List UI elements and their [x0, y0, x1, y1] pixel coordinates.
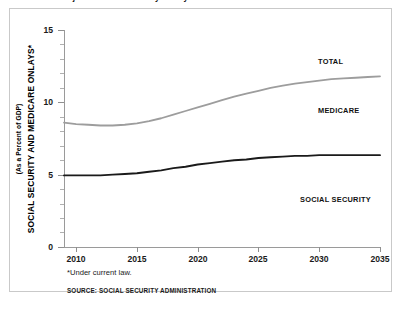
- x-tick-mark-2025: [258, 247, 259, 252]
- y-tick-minor-9: [60, 117, 64, 118]
- y-tick-minor-8: [60, 131, 64, 132]
- y-axis-title-block: SOCIAL SECURITY AND MEDICARE ONLAYS* (As…: [14, 30, 32, 248]
- y-tick-label-5: 5: [23, 170, 53, 180]
- y-tick-mark-15: [58, 30, 64, 31]
- y-tick-minor-1: [60, 232, 64, 233]
- chart-plot-area: SOCIAL SECURITY AND MEDICARE ONLAYS* (As…: [0, 0, 402, 316]
- x-tick-mark-2035: [380, 247, 381, 252]
- x-tick-label-2015: 2015: [117, 254, 157, 264]
- y-tick-minor-11: [60, 88, 64, 89]
- x-tick-mark-2030: [319, 247, 320, 252]
- y-tick-mark-0: [58, 247, 64, 248]
- y-tick-mark-10: [58, 102, 64, 103]
- source-note: SOURCE: SOCIAL SECURITY ADMINISTRATION: [67, 287, 216, 294]
- y-axis-subtitle: (As a Percent of GDP): [15, 30, 22, 248]
- y-tick-minor-12: [60, 73, 64, 74]
- line-social-security: [64, 155, 380, 175]
- x-tick-label-2030: 2030: [299, 254, 339, 264]
- x-tick-label-2035: 2035: [360, 254, 400, 264]
- x-tick-mark-2020: [198, 247, 199, 252]
- y-tick-minor-2: [60, 218, 64, 219]
- y-tick-minor-14: [60, 44, 64, 45]
- series-label-social-security: SOCIAL SECURITY: [300, 195, 371, 204]
- y-tick-label-0: 0: [23, 242, 53, 252]
- x-tick-mark-2015: [137, 247, 138, 252]
- y-tick-minor-7: [60, 146, 64, 147]
- y-axis-title: SOCIAL SECURITY AND MEDICARE ONLAYS*: [26, 30, 36, 248]
- series-label-medicare: MEDICARE: [318, 106, 359, 115]
- y-tick-minor-3: [60, 204, 64, 205]
- footnote: *Under current law.: [67, 268, 132, 277]
- series-lines: [0, 0, 402, 316]
- x-tick-label-2010: 2010: [56, 254, 96, 264]
- line-total: [64, 76, 380, 125]
- y-axis-line: [64, 30, 65, 248]
- x-tick-label-2020: 2020: [178, 254, 218, 264]
- y-tick-mark-5: [58, 175, 64, 176]
- x-axis-line: [64, 247, 380, 248]
- y-tick-label-10: 10: [23, 97, 53, 107]
- y-tick-minor-13: [60, 59, 64, 60]
- series-label-total: TOTAL: [318, 57, 343, 66]
- x-tick-label-2025: 2025: [238, 254, 278, 264]
- y-tick-minor-4: [60, 189, 64, 190]
- y-tick-minor-6: [60, 160, 64, 161]
- x-tick-mark-2010: [76, 247, 77, 252]
- y-tick-label-15: 15: [23, 25, 53, 35]
